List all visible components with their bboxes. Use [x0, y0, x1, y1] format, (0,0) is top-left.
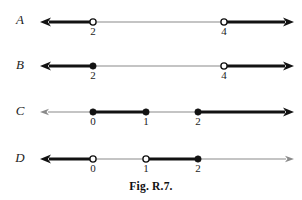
arrowhead-left [40, 109, 49, 115]
tick-label-c-1: 1 [138, 115, 154, 127]
tick-label-d-1: 1 [138, 162, 154, 174]
number-line-b [0, 53, 302, 79]
arrowhead-right [285, 156, 294, 162]
tick-label-b-4: 4 [216, 69, 232, 81]
tick-label-a-4: 4 [216, 25, 232, 37]
figure-r7: A24B24C012D012 Fig. R.7. [0, 0, 302, 200]
tick-label-d-0: 0 [85, 162, 101, 174]
tick-label-c-2: 2 [190, 115, 206, 127]
tick-label-c-0: 0 [85, 115, 101, 127]
tick-label-d-2: 2 [190, 162, 206, 174]
number-line-a [0, 9, 302, 35]
figure-caption: Fig. R.7. [0, 180, 302, 192]
tick-label-a-2: 2 [85, 25, 101, 37]
tick-label-b-2: 2 [85, 69, 101, 81]
